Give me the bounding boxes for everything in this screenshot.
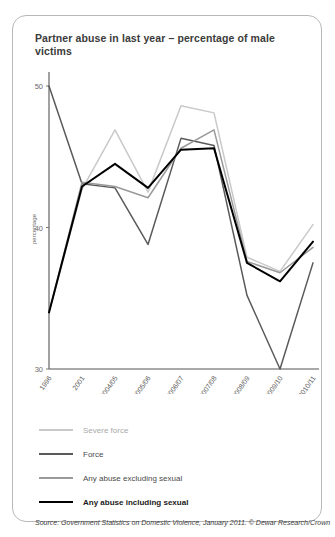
x-axis-tick-label: 2005/06: [132, 374, 152, 394]
legend-item-label: Any abuse excluding sexual: [83, 474, 182, 483]
x-axis-tick-label: 2006/07: [165, 374, 185, 394]
series-line-3: [49, 148, 313, 312]
legend-item-label: Any abuse including sexual: [83, 498, 188, 507]
legend-swatch-icon: [39, 477, 73, 479]
legend-swatch-icon: [39, 501, 73, 503]
series-line-2: [49, 130, 313, 313]
x-axis-tick-label: 2009/10: [264, 374, 284, 394]
legend-swatch-icon: [39, 429, 73, 431]
chart-legend: Severe forceForceAny abuse excluding sex…: [39, 418, 299, 514]
x-axis-tick-label: 2010/11: [297, 374, 317, 394]
x-axis-tick-label: 2004/05: [99, 374, 119, 394]
x-axis-tick-label: 2007/08: [198, 374, 218, 394]
chart-plot-area: percentage 304050199620012004/052005/062…: [13, 54, 321, 394]
source-note: Source: Government Statistics on Domesti…: [35, 519, 325, 526]
y-axis-tick-label: 50: [35, 82, 43, 91]
legend-item-label: Force: [83, 450, 103, 459]
series-line-1: [49, 86, 313, 369]
legend-item: Severe force: [39, 418, 299, 442]
legend-item: Any abuse excluding sexual: [39, 466, 299, 490]
y-axis-tick-label: 30: [35, 365, 43, 374]
x-axis-tick-label: 2008/09: [231, 374, 251, 394]
x-axis-tick-label: 1996: [38, 374, 53, 391]
chart-card: Partner abuse in last year – percentage …: [12, 15, 322, 522]
legend-item-label: Severe force: [83, 426, 128, 435]
legend-item: Any abuse including sexual: [39, 490, 299, 514]
x-axis-tick-label: 2001: [71, 374, 86, 391]
series-line-0: [49, 106, 313, 313]
y-axis-tick-label: 40: [35, 224, 43, 233]
legend-swatch-icon: [39, 453, 73, 455]
legend-item: Force: [39, 442, 299, 466]
line-chart: 304050199620012004/052005/062006/072007/…: [13, 54, 321, 394]
